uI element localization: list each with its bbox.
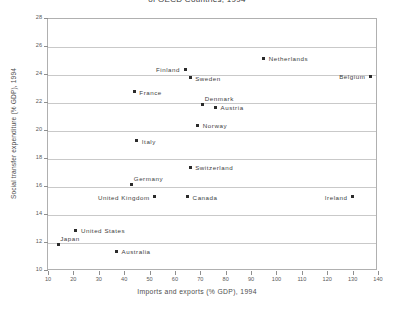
y-tick-label: 28 xyxy=(24,14,42,20)
data-point-label: Japan xyxy=(60,235,80,242)
y-tick-mark xyxy=(44,242,48,243)
gridline xyxy=(48,47,376,48)
x-tick-mark xyxy=(73,271,74,275)
y-tick-mark xyxy=(44,46,48,47)
y-tick-label: 22 xyxy=(24,98,42,104)
x-tick-label: 130 xyxy=(341,276,365,282)
gridline xyxy=(48,131,376,132)
data-point-label: Canada xyxy=(193,193,218,200)
data-point-marker[interactable] xyxy=(201,103,204,106)
y-tick-mark xyxy=(44,214,48,215)
data-point-label: Australia xyxy=(122,248,151,255)
x-tick-label: 90 xyxy=(239,276,263,282)
chart-title: of OECD Countries, 1994 xyxy=(0,0,394,4)
x-tick-label: 70 xyxy=(188,276,212,282)
data-point-label: Finland xyxy=(156,66,180,73)
data-point-marker[interactable] xyxy=(153,195,156,198)
x-tick-mark xyxy=(48,271,49,275)
y-tick-mark xyxy=(44,74,48,75)
x-tick-mark xyxy=(175,271,176,275)
x-tick-mark xyxy=(99,271,100,275)
gridline xyxy=(48,187,376,188)
gridline xyxy=(48,215,376,216)
y-tick-label: 20 xyxy=(24,126,42,132)
data-point-marker[interactable] xyxy=(74,229,77,232)
data-point-label: Netherlands xyxy=(269,55,308,62)
data-point-label: Austria xyxy=(221,104,244,111)
data-point-marker[interactable] xyxy=(133,90,136,93)
gridline xyxy=(48,159,376,160)
x-tick-label: 140 xyxy=(366,276,390,282)
x-tick-mark xyxy=(353,271,354,275)
y-tick-mark xyxy=(44,130,48,131)
data-point-marker[interactable] xyxy=(186,195,189,198)
y-tick-label: 18 xyxy=(24,154,42,160)
data-point-label: Sweden xyxy=(195,74,221,81)
x-tick-label: 10 xyxy=(36,276,60,282)
y-tick-label: 24 xyxy=(24,70,42,76)
x-tick-label: 20 xyxy=(61,276,85,282)
data-point-marker[interactable] xyxy=(189,76,192,79)
x-tick-label: 120 xyxy=(315,276,339,282)
data-point-marker[interactable] xyxy=(351,195,354,198)
data-point-label: United Kingdom xyxy=(98,193,150,200)
data-point-label: Italy xyxy=(142,137,156,144)
x-tick-label: 80 xyxy=(214,276,238,282)
data-point-label: Denmark xyxy=(205,95,234,102)
x-tick-label: 30 xyxy=(87,276,111,282)
data-point-marker[interactable] xyxy=(57,243,60,246)
y-axis-title: Social transfer expenditure (% GDP), 199… xyxy=(10,34,17,234)
y-tick-label: 16 xyxy=(24,182,42,188)
data-point-label: Ireland xyxy=(325,193,348,200)
chart-container: of OECD Countries, 1994 Social transfer … xyxy=(0,0,394,313)
data-point-marker[interactable] xyxy=(189,166,192,169)
data-point-marker[interactable] xyxy=(135,139,138,142)
x-tick-mark xyxy=(150,271,151,275)
data-point-marker[interactable] xyxy=(369,75,372,78)
y-tick-mark xyxy=(44,18,48,19)
data-point-marker[interactable] xyxy=(196,124,199,127)
x-tick-mark xyxy=(302,271,303,275)
x-tick-mark xyxy=(327,271,328,275)
y-tick-label: 10 xyxy=(24,266,42,272)
y-tick-label: 12 xyxy=(24,238,42,244)
plot-area: 10121416182022242628 1020304050607080901… xyxy=(47,18,377,270)
x-tick-label: 100 xyxy=(264,276,288,282)
data-point-marker[interactable] xyxy=(115,250,118,253)
x-tick-label: 40 xyxy=(112,276,136,282)
y-tick-label: 14 xyxy=(24,210,42,216)
data-point-marker[interactable] xyxy=(184,68,187,71)
y-tick-mark xyxy=(44,158,48,159)
y-tick-mark xyxy=(44,102,48,103)
data-point-label: Germany xyxy=(134,175,163,182)
y-tick-mark xyxy=(44,186,48,187)
x-tick-mark xyxy=(124,271,125,275)
data-point-label: United States xyxy=(81,227,125,234)
data-point-label: Switzerland xyxy=(195,164,233,171)
data-point-marker[interactable] xyxy=(262,57,265,60)
gridline xyxy=(48,243,376,244)
x-tick-mark xyxy=(378,271,379,275)
data-point-label: France xyxy=(139,88,162,95)
gridline xyxy=(48,103,376,104)
x-tick-label: 50 xyxy=(138,276,162,282)
x-tick-mark xyxy=(276,271,277,275)
y-tick-label: 26 xyxy=(24,42,42,48)
data-point-marker[interactable] xyxy=(130,183,133,186)
x-tick-mark xyxy=(251,271,252,275)
x-tick-mark xyxy=(200,271,201,275)
data-point-label: Norway xyxy=(203,122,227,129)
data-point-label: Belgium xyxy=(339,73,365,80)
data-point-marker[interactable] xyxy=(214,106,217,109)
x-tick-label: 110 xyxy=(290,276,314,282)
x-tick-label: 60 xyxy=(163,276,187,282)
x-axis-title: Imports and exports (% GDP), 1994 xyxy=(0,288,394,295)
x-tick-mark xyxy=(226,271,227,275)
